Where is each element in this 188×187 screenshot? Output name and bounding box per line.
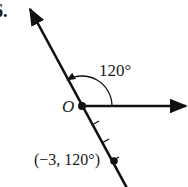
tick-mark [102, 139, 109, 143]
point-label: (−3, 120°) [34, 152, 100, 168]
plotted-point [110, 157, 118, 165]
polar-diagram: 6. 120° O (−3, 120°) [0, 0, 188, 187]
angle-label: 120° [99, 62, 131, 79]
problem-number: 6. [0, 2, 8, 20]
origin-point [78, 102, 86, 110]
origin-label: O [62, 98, 74, 115]
